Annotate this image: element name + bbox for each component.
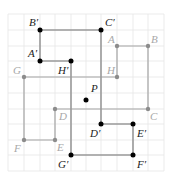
label-B: B xyxy=(151,33,158,45)
point-A-prime xyxy=(38,59,43,64)
label-F: F xyxy=(13,142,21,154)
point-F xyxy=(22,138,26,142)
label-G-prime: G′ xyxy=(58,158,69,170)
label-C: C xyxy=(150,110,158,122)
point-E-prime xyxy=(131,122,136,127)
point-B xyxy=(146,44,150,48)
label-E: E xyxy=(56,141,64,153)
point-H-prime xyxy=(69,59,74,64)
point-G-prime xyxy=(69,153,74,158)
point-D xyxy=(53,107,57,111)
label-B-prime: B′ xyxy=(29,16,39,28)
image-points xyxy=(38,28,136,158)
point-D-prime xyxy=(99,122,104,127)
point-A xyxy=(115,44,119,48)
point-H xyxy=(115,75,119,79)
label-G: G xyxy=(13,64,21,76)
label-H-prime: H′ xyxy=(57,64,69,76)
label-E-prime: E′ xyxy=(136,127,147,139)
rotation-diagram: A B C D E F G H A′ B′ C′ D′ E′ F′ G′ H′ … xyxy=(0,0,173,183)
label-A: A xyxy=(107,33,115,45)
label-D: D xyxy=(58,110,67,122)
label-F-prime: F′ xyxy=(136,158,147,170)
point-P xyxy=(84,98,89,103)
grid xyxy=(8,14,164,171)
label-D-prime: D′ xyxy=(89,127,101,139)
image-polygon xyxy=(40,30,133,155)
label-H: H xyxy=(106,64,116,76)
label-A-prime: A′ xyxy=(27,47,38,59)
point-C-prime xyxy=(99,28,104,33)
point-B-prime xyxy=(38,28,43,33)
point-F-prime xyxy=(131,153,136,158)
point-G xyxy=(22,75,26,79)
label-C-prime: C′ xyxy=(105,16,115,28)
label-P: P xyxy=(90,82,98,94)
